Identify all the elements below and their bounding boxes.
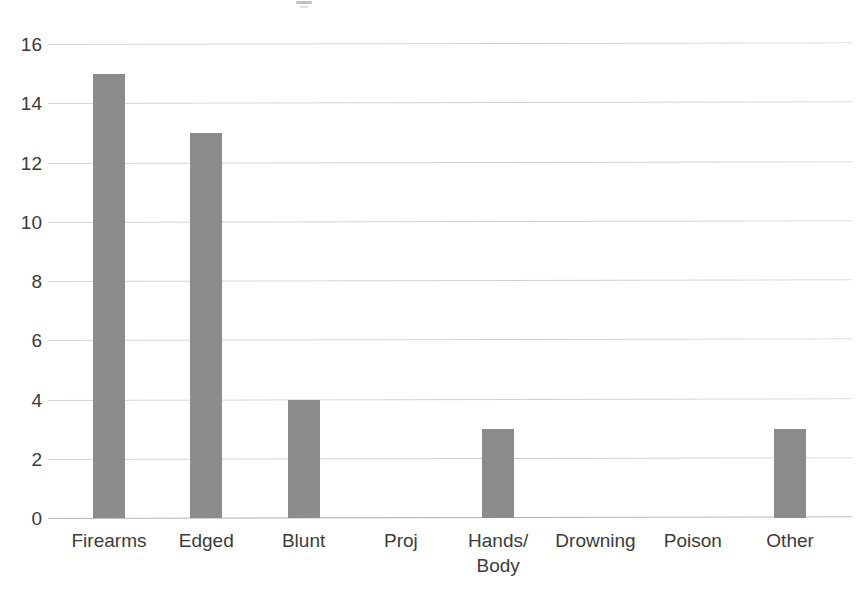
bar-firearms[interactable]	[93, 74, 125, 518]
bar-other[interactable]	[774, 429, 806, 518]
gridline-4	[48, 398, 852, 401]
scan-artifact-mark	[296, 1, 312, 4]
gridline-0	[48, 516, 852, 519]
gridline-16	[48, 42, 852, 45]
y-tick-label-8: 8	[0, 272, 42, 291]
bar-blunt[interactable]	[288, 400, 320, 519]
y-tick-label-12: 12	[0, 153, 42, 172]
y-tick-label-14: 14	[0, 94, 42, 113]
gridline-10	[48, 220, 852, 223]
gridline-12	[48, 161, 852, 164]
gridline-14	[48, 101, 852, 104]
y-tick-label-16: 16	[0, 35, 42, 54]
bar-edged[interactable]	[190, 133, 222, 518]
gridline-6	[48, 338, 852, 341]
scan-artifact-mark-secondary	[300, 6, 308, 8]
bar-chart-figure: 0246810121416 FirearmsEdgedBluntProjHand…	[0, 0, 856, 590]
y-tick-label-0: 0	[0, 509, 42, 528]
gridline-8	[48, 279, 852, 282]
gridline-2	[48, 457, 852, 460]
y-tick-label-4: 4	[0, 390, 42, 409]
plot-area	[48, 40, 852, 522]
bar-hands-body[interactable]	[482, 429, 514, 518]
y-tick-label-2: 2	[0, 449, 42, 468]
y-tick-label-10: 10	[0, 212, 42, 231]
y-tick-label-6: 6	[0, 331, 42, 350]
x-label-other: Other	[715, 528, 856, 553]
